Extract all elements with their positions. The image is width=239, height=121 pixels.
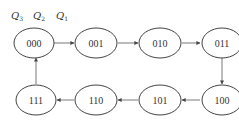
state-diagram: Q3 Q2 Q1 000 001 010 011 100 101 — [0, 0, 239, 121]
state-010: 010 — [139, 28, 181, 58]
state-100: 100 — [202, 85, 239, 115]
svg-text:011: 011 — [215, 38, 230, 49]
state-111: 111 — [16, 85, 56, 115]
state-000: 000 — [14, 28, 54, 58]
svg-text:010: 010 — [153, 38, 168, 49]
label-q3: Q3 — [11, 10, 23, 22]
state-110: 110 — [75, 85, 117, 115]
bit-labels: Q3 Q2 Q1 — [11, 10, 68, 22]
transitions — [36, 43, 222, 100]
svg-text:000: 000 — [27, 38, 42, 49]
state-001: 001 — [75, 28, 117, 58]
svg-text:111: 111 — [29, 95, 43, 106]
svg-text:101: 101 — [153, 95, 168, 106]
state-101: 101 — [139, 85, 181, 115]
label-q1: Q1 — [56, 10, 68, 22]
svg-text:100: 100 — [215, 95, 230, 106]
label-q2: Q2 — [33, 10, 45, 22]
svg-text:001: 001 — [89, 38, 104, 49]
state-011: 011 — [202, 28, 239, 58]
svg-text:110: 110 — [89, 95, 104, 106]
